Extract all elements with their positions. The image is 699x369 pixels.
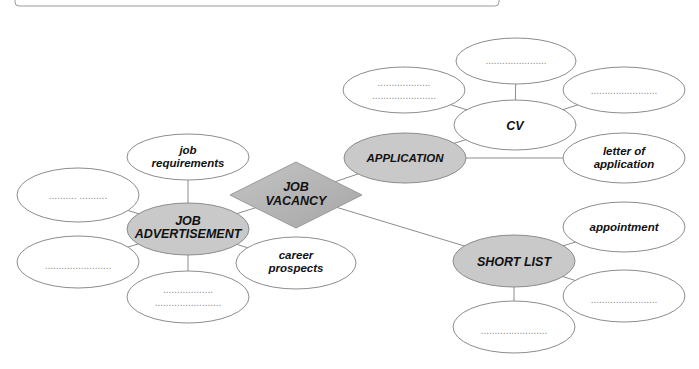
- svg-text:appointment: appointment: [590, 221, 660, 233]
- cv-right-blank-node[interactable]: ........................: [563, 67, 685, 113]
- svg-text:ADVERTISEMENT: ADVERTISEMENT: [134, 227, 243, 241]
- svg-text:requirements: requirements: [152, 157, 225, 169]
- svg-text:prospects: prospects: [268, 262, 324, 274]
- svg-text:application: application: [594, 158, 655, 170]
- svg-text:........................: ........................: [155, 297, 222, 308]
- cv-left-blank-node[interactable]: ................... ....................…: [343, 67, 465, 113]
- short-list-right-blank-node[interactable]: ........................: [563, 270, 685, 322]
- svg-text:VACANCY: VACANCY: [266, 194, 329, 208]
- short-list-bottom-blank-node[interactable]: ........................: [453, 301, 575, 353]
- svg-text:letter of: letter of: [603, 145, 646, 157]
- job-requirements-node[interactable]: job requirements: [127, 134, 249, 180]
- career-prospects-node[interactable]: career prospects: [236, 237, 356, 289]
- svg-text:........................: ........................: [481, 325, 548, 336]
- svg-text:SHORT LIST: SHORT LIST: [477, 255, 552, 269]
- top-frame-border: [15, 0, 499, 6]
- svg-text:APPLICATION: APPLICATION: [365, 152, 444, 164]
- svg-text:JOB: JOB: [175, 214, 201, 228]
- svg-text:......................: ......................: [485, 55, 546, 66]
- mind-map-diagram: ...................... .................…: [0, 0, 699, 369]
- svg-text:career: career: [279, 249, 314, 261]
- short-list-node[interactable]: SHORT LIST: [453, 235, 575, 287]
- svg-text:...................: ...................: [378, 77, 431, 88]
- svg-text:........................: ........................: [45, 260, 112, 271]
- svg-text:........................: ........................: [591, 294, 658, 305]
- svg-text:..................: ..................: [163, 284, 213, 295]
- cv-node[interactable]: CV: [454, 100, 576, 150]
- application-node[interactable]: APPLICATION: [344, 133, 466, 183]
- ad-lower-left-blank-node[interactable]: ........................: [17, 236, 139, 288]
- ad-upper-left-blank-node[interactable]: .......... ..........: [17, 168, 139, 222]
- appointment-node[interactable]: appointment: [563, 202, 685, 252]
- svg-text:.......... ..........: .......... ..........: [49, 190, 107, 201]
- job-vacancy-center-node[interactable]: JOB VACANCY: [230, 162, 362, 228]
- svg-text:........................: ........................: [591, 85, 658, 96]
- letter-of-application-node[interactable]: letter of application: [563, 133, 685, 183]
- svg-text:CV: CV: [506, 119, 525, 133]
- svg-text:JOB: JOB: [283, 180, 309, 194]
- svg-text:job: job: [177, 144, 196, 156]
- ad-bottom-blank-node[interactable]: .................. .....................…: [127, 271, 249, 323]
- job-advertisement-node[interactable]: JOB ADVERTISEMENT: [127, 203, 249, 255]
- svg-text:.......................: .......................: [372, 90, 436, 101]
- cv-top-blank-node[interactable]: ......................: [456, 38, 576, 84]
